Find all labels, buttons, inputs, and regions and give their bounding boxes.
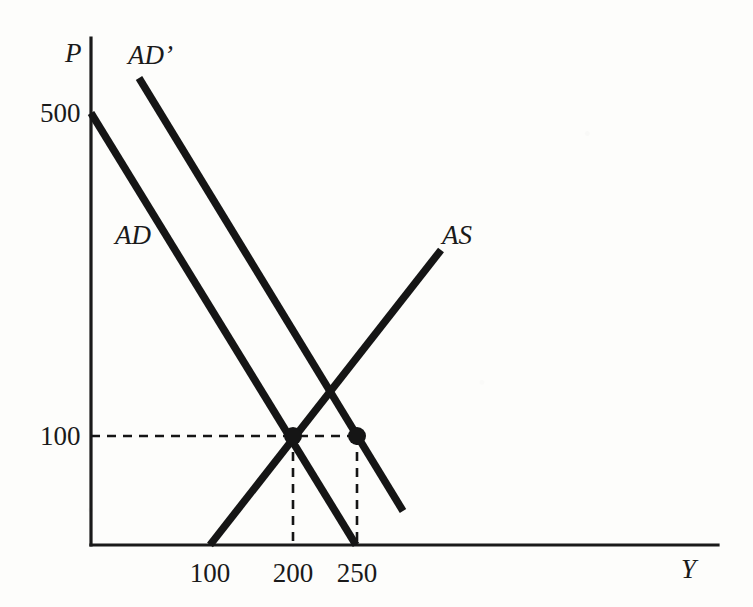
x-tick-label-200: 200 <box>273 560 314 587</box>
equilibrium-dot-2 <box>348 427 366 445</box>
y-tick-label-100: 100 <box>40 423 81 450</box>
x-tick-label-250: 250 <box>337 560 378 587</box>
ad-curve-label: AD <box>115 222 151 249</box>
equilibrium-dot-1 <box>284 427 302 445</box>
diagram-canvas <box>0 0 753 607</box>
x-axis-label: Y <box>681 556 696 583</box>
ad-curve <box>91 113 356 545</box>
ad-as-diagram: P Y 500 100 100 200 250 AD AD’ AS <box>0 0 753 607</box>
y-axis-label: P <box>65 40 82 67</box>
as-curve-label: AS <box>442 222 472 249</box>
ad-prime-curve <box>139 78 403 511</box>
ad-prime-curve-label: AD’ <box>128 42 173 69</box>
x-tick-label-100: 100 <box>190 560 231 587</box>
y-tick-label-500: 500 <box>40 100 81 127</box>
